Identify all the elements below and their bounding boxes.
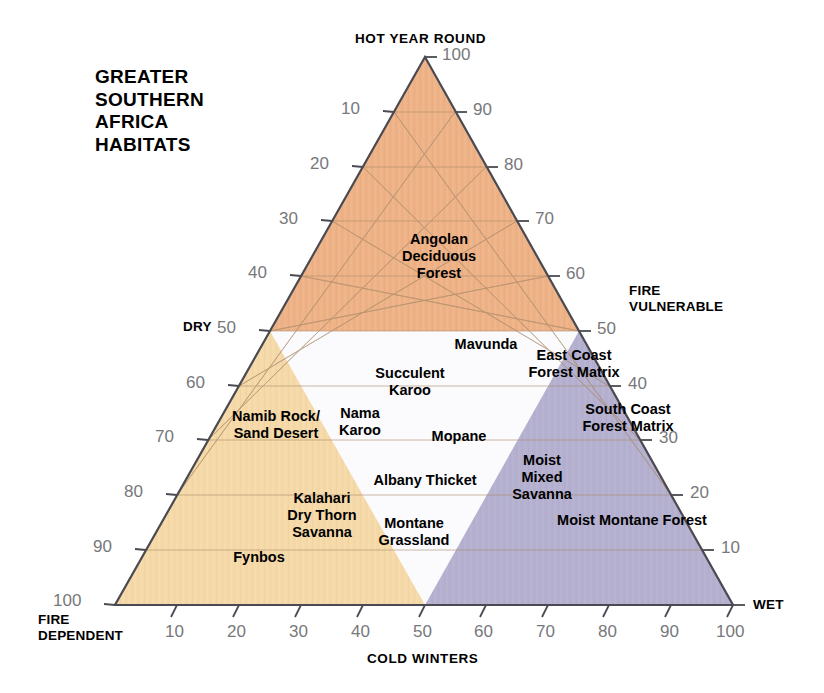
bottom-tick-80: 80 bbox=[598, 622, 617, 642]
habitat-label-east-coast-forest-matrix: East Coast Forest Matrix bbox=[528, 347, 619, 381]
right-tick-10: 10 bbox=[721, 538, 740, 558]
axis-label-hot-year-round: HOT YEAR ROUND bbox=[355, 31, 486, 46]
left-tick-50: 50 bbox=[217, 318, 236, 338]
left-tick-10: 10 bbox=[341, 99, 360, 119]
bottom-tick-90: 90 bbox=[660, 622, 679, 642]
bottom-tick-40: 40 bbox=[351, 622, 370, 642]
left-tick-70: 70 bbox=[155, 427, 174, 447]
left-tick-80: 80 bbox=[124, 482, 143, 502]
page-title: GREATER SOUTHERN AFRICA HABITATS bbox=[95, 66, 204, 156]
habitat-label-fynbos: Fynbos bbox=[233, 549, 285, 566]
axis-label-cold-winters: COLD WINTERS bbox=[367, 651, 478, 666]
habitat-label-south-coast-forest-matrix: South Coast Forest Matrix bbox=[582, 401, 673, 435]
habitat-label-nama-karoo: Nama Karoo bbox=[339, 405, 381, 439]
axis-label-dry: DRY bbox=[183, 319, 212, 335]
habitat-label-moist-mixed-savanna: Moist Mixed Savanna bbox=[512, 452, 572, 503]
bottom-tick-100: 100 bbox=[716, 622, 744, 642]
left-tick-60: 60 bbox=[186, 373, 205, 393]
hot-year-round-region bbox=[270, 57, 579, 331]
right-tick-100: 100 bbox=[442, 45, 470, 65]
left-tick-90: 90 bbox=[93, 537, 112, 557]
habitat-label-angolan-deciduous-forest: Angolan Deciduous Forest bbox=[402, 231, 476, 282]
right-tick-60: 60 bbox=[566, 264, 585, 284]
habitat-label-montane-grassland: Montane Grassland bbox=[379, 515, 450, 549]
right-tick-40: 40 bbox=[628, 374, 647, 394]
habitat-label-namib-rock-sand-desert: Namib Rock/ Sand Desert bbox=[232, 408, 320, 442]
left-tick-20: 20 bbox=[310, 154, 329, 174]
bottom-tick-30: 30 bbox=[289, 622, 308, 642]
bottom-tick-70: 70 bbox=[536, 622, 555, 642]
bottom-tick-10: 10 bbox=[165, 622, 184, 642]
corner-label-fire-dependent: FIRE DEPENDENT bbox=[38, 612, 123, 644]
habitat-label-mopane: Mopane bbox=[432, 428, 487, 445]
bottom-tick-60: 60 bbox=[474, 622, 493, 642]
habitat-label-succulent-karoo: Succulent Karoo bbox=[375, 365, 444, 399]
right-tick-80: 80 bbox=[504, 155, 523, 175]
left-tick-40: 40 bbox=[248, 263, 267, 283]
left-tick-30: 30 bbox=[279, 209, 298, 229]
axis-label-fire-vulnerable: FIRE VULNERABLE bbox=[629, 283, 723, 315]
right-tick-90: 90 bbox=[473, 100, 492, 120]
right-tick-70: 70 bbox=[535, 209, 554, 229]
right-tick-50: 50 bbox=[597, 319, 616, 339]
habitat-label-moist-montane-forest: Moist Montane Forest bbox=[557, 512, 707, 529]
corner-label-wet: WET bbox=[753, 597, 784, 613]
right-tick-20: 20 bbox=[690, 483, 709, 503]
bottom-tick-20: 20 bbox=[227, 622, 246, 642]
ternary-diagram-page: GREATER SOUTHERN AFRICA HABITATS HOT YEA… bbox=[0, 0, 824, 693]
habitat-label-mavunda: Mavunda bbox=[455, 336, 518, 353]
bottom-tick-50: 50 bbox=[413, 622, 432, 642]
left-tick-100: 100 bbox=[53, 591, 81, 611]
habitat-label-kalahari-dry-thorn-savanna: Kalahari Dry Thorn Savanna bbox=[287, 490, 356, 541]
habitat-label-albany-thicket: Albany Thicket bbox=[373, 472, 476, 489]
